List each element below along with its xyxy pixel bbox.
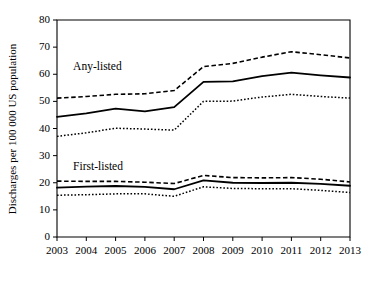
series-line [57, 187, 350, 196]
data-series-group [57, 52, 350, 197]
x-axis-ticks: 2003200420052006200720082009201020112012… [46, 237, 362, 256]
x-tick-label: 2011 [281, 244, 303, 256]
x-tick-label: 2004 [75, 244, 98, 256]
y-tick-label: 60 [39, 67, 51, 79]
series-line [57, 52, 350, 98]
y-tick-label: 70 [39, 40, 51, 52]
series-group-label: Any-listed [73, 60, 122, 73]
y-tick-label: 30 [39, 149, 51, 161]
y-tick-label: 20 [39, 176, 51, 188]
chart-figure: Discharges per 100 000 US population 010… [0, 0, 370, 281]
y-axis-title-text: Discharges per 100 000 US population [6, 43, 18, 214]
y-axis-title: Discharges per 100 000 US population [6, 43, 18, 214]
x-tick-label: 2008 [193, 244, 216, 256]
x-tick-label: 2007 [163, 244, 186, 256]
line-chart: Discharges per 100 000 US population 010… [0, 0, 370, 281]
series-line [57, 94, 350, 136]
x-tick-label: 2003 [46, 244, 69, 256]
x-tick-label: 2009 [222, 244, 245, 256]
y-tick-label: 80 [39, 13, 51, 25]
y-tick-label: 50 [39, 94, 51, 106]
x-tick-label: 2005 [105, 244, 128, 256]
y-axis-ticks: 01020304050607080 [39, 13, 57, 242]
x-tick-label: 2006 [134, 244, 157, 256]
y-tick-label: 10 [39, 203, 51, 215]
y-tick-label: 40 [39, 122, 51, 134]
x-tick-label: 2012 [310, 244, 332, 256]
series-group-label: First-listed [73, 160, 123, 172]
x-tick-label: 2013 [339, 244, 362, 256]
y-tick-label: 0 [45, 230, 51, 242]
x-tick-label: 2010 [251, 244, 274, 256]
series-annotations: Any-listedFirst-listed [73, 60, 123, 172]
